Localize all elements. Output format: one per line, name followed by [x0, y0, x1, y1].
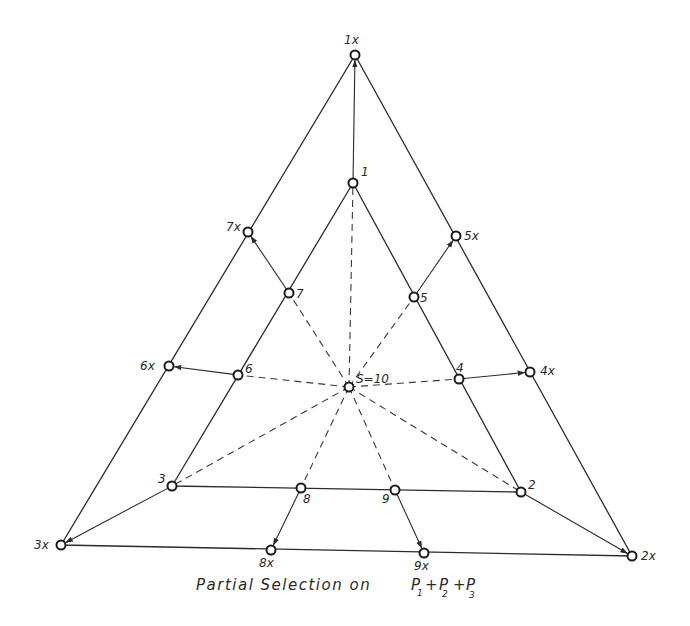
label-9x: 9x [414, 559, 430, 573]
arrow-1-to-1x [353, 60, 355, 178]
point-6x [165, 362, 174, 371]
caption-text: Partial Selection on [196, 576, 371, 594]
arrow-4-to-4x [463, 373, 524, 379]
diagram-caption: Partial Selection on P 1 + P 2 + P 3 [196, 576, 477, 600]
label-7: 7 [296, 287, 304, 301]
label-7x: 7x [226, 220, 242, 234]
dashed-ray-to-8 [301, 387, 349, 488]
point-4 [455, 375, 464, 384]
selection-triangle-diagram: 1x 2x 3x 1 2 3 4 5 6 7 8 9 4x 5x 6x 7x 8… [0, 0, 690, 626]
caption-p2-sub: 2 [442, 589, 448, 599]
label-1x: 1x [344, 33, 360, 47]
label-6x: 6x [140, 359, 156, 373]
point-9 [391, 486, 400, 495]
dashed-ray-to-9 [349, 387, 395, 490]
point-1x [351, 51, 360, 60]
point-1 [349, 179, 358, 188]
caption-plus-1: + [425, 576, 439, 594]
dashed-ray-to-2 [349, 387, 521, 492]
label-1: 1 [361, 165, 369, 179]
label-2: 2 [528, 478, 536, 492]
point-7x [244, 228, 253, 237]
caption-plus-2: + [453, 576, 467, 594]
label-9: 9 [382, 492, 390, 506]
label-5x: 5x [464, 229, 480, 243]
label-4x: 4x [540, 364, 556, 378]
label-center: S=10 [356, 372, 389, 386]
arrow-6-to-6x [174, 367, 233, 375]
arrow-9-to-9x [397, 494, 422, 548]
arrow-8-to-8x [273, 492, 299, 545]
point-4x [526, 368, 535, 377]
point-6 [234, 371, 243, 380]
dashed-ray-to-3 [172, 387, 349, 486]
arrow-2-to-2x [525, 494, 627, 553]
point-8x [267, 546, 276, 555]
caption-p3-sub: 3 [469, 590, 475, 600]
point-7 [285, 289, 294, 298]
point-5 [410, 293, 419, 302]
point-2 [517, 488, 526, 497]
points [57, 51, 637, 561]
label-3x: 3x [34, 538, 50, 552]
point-s [345, 383, 354, 392]
caption-p1-sub: 1 [417, 588, 423, 598]
label-8: 8 [303, 492, 311, 506]
label-2x: 2x [641, 549, 657, 563]
dashed-ray-to-1 [349, 183, 353, 387]
selection-arrows [66, 60, 627, 553]
point-5x [452, 232, 461, 241]
label-3: 3 [158, 472, 166, 486]
arrow-7-to-7x [251, 237, 286, 290]
label-6: 6 [245, 362, 253, 376]
point-3x [57, 541, 66, 550]
point-3 [168, 482, 177, 491]
dashed-ray-to-6 [238, 375, 349, 387]
label-8x: 8x [259, 556, 275, 570]
outer-triangle [61, 55, 632, 556]
label-4: 4 [456, 361, 464, 375]
label-5: 5 [420, 291, 428, 305]
dashed-ray-to-7 [289, 293, 349, 387]
arrow-3-to-3x [66, 488, 168, 542]
point-9x [420, 549, 429, 558]
arrow-5-to-5x [417, 241, 453, 294]
point-2x [628, 552, 637, 561]
